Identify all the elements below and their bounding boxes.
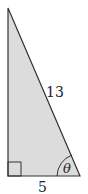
hypotenuse-label: 13 (46, 84, 64, 100)
base-label: 5 (38, 179, 47, 194)
angle-label: θ (63, 161, 71, 176)
triangle-diagram: 13 5 θ (0, 0, 88, 194)
right-triangle (8, 8, 80, 176)
